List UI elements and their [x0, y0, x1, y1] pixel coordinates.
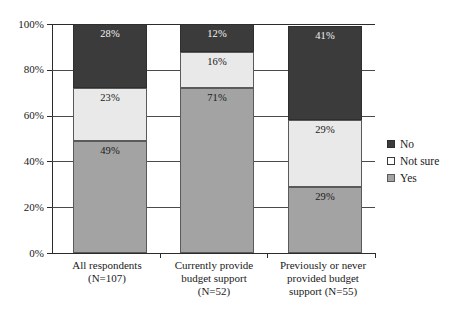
y-axis-tick-label-20: 20% [0, 202, 44, 213]
bar-segment-label-not-sure: 29% [315, 121, 335, 135]
category-label-line: support (N=55) [266, 285, 380, 298]
bar-segment-label-yes: 49% [100, 142, 120, 156]
legend-label-yes: Yes [400, 172, 417, 184]
bar-segment-label-not-sure: 23% [100, 89, 120, 103]
bar-segment-not-sure[interactable]: 23% [73, 88, 147, 141]
legend-item-not-sure[interactable]: Not sure [387, 153, 453, 168]
x-axis-tick-mark-1 [160, 254, 161, 258]
y-axis-tick-label-40: 40% [0, 156, 44, 167]
x-axis-line [52, 253, 376, 254]
x-axis-category-label-all-respondents: All respondents (N=107) [53, 259, 161, 285]
bar-segment-label-no: 12% [207, 25, 227, 39]
bar-segment-yes[interactable]: 71% [180, 88, 254, 253]
category-label-line: (N=52) [160, 285, 268, 298]
category-label-line: (N=107) [53, 272, 161, 285]
legend-label-no: No [400, 138, 414, 150]
bar-segment-yes[interactable]: 49% [73, 141, 147, 253]
category-label-line: All respondents [53, 259, 161, 272]
x-axis-tick-mark-2 [267, 254, 268, 258]
bar-segment-yes[interactable]: 29% [288, 187, 362, 253]
y-axis-tick-label-60: 60% [0, 110, 44, 121]
bar-segment-not-sure[interactable]: 29% [288, 120, 362, 186]
legend-item-no[interactable]: No [387, 136, 453, 151]
legend-swatch-icon-yes [387, 174, 395, 182]
plot-area: 28% 23% 49% 12% 16% 71% 41% [52, 24, 375, 253]
bar-currently-provide-budget-support[interactable]: 12% 16% 71% [180, 24, 254, 253]
stacked-bar-chart: 100% 80% 60% 40% 20% 0% 28% 23% 49% [0, 0, 455, 317]
legend-label-not-sure: Not sure [400, 155, 439, 167]
legend-swatch-icon-no [387, 140, 395, 148]
bar-previously-or-never-provided-budget-support[interactable]: 41% 29% 29% [288, 26, 362, 253]
bar-all-respondents[interactable]: 28% 23% 49% [73, 24, 147, 253]
category-label-line: provided budget [266, 272, 380, 285]
bar-segment-label-no: 28% [100, 25, 120, 39]
category-label-line: budget support [160, 272, 268, 285]
x-axis-category-label-previously-or-never-provided-budget-support: Previously or never provided budget supp… [266, 259, 380, 298]
legend: No Not sure Yes [387, 136, 453, 187]
legend-swatch-icon-not-sure [387, 157, 395, 165]
bar-segment-label-no: 41% [315, 27, 335, 41]
bar-segment-not-sure[interactable]: 16% [180, 52, 254, 89]
y-axis-tick-label-80: 80% [0, 64, 44, 75]
bar-segment-no[interactable]: 28% [73, 24, 147, 88]
bar-segment-no[interactable]: 12% [180, 24, 254, 51]
bar-segment-label-yes: 71% [207, 89, 227, 103]
category-label-line: Currently provide [160, 259, 268, 272]
y-axis-tick-label-100: 100% [0, 19, 44, 30]
bar-segment-label-yes: 29% [315, 188, 335, 202]
x-axis-tick-mark-3 [375, 254, 376, 258]
y-axis-tick-label-0: 0% [0, 248, 44, 259]
bar-segment-no[interactable]: 41% [288, 26, 362, 120]
category-label-line: Previously or never [266, 259, 380, 272]
legend-item-yes[interactable]: Yes [387, 170, 453, 185]
x-axis-category-label-currently-provide-budget-support: Currently provide budget support (N=52) [160, 259, 268, 298]
bar-segment-label-not-sure: 16% [207, 53, 227, 67]
